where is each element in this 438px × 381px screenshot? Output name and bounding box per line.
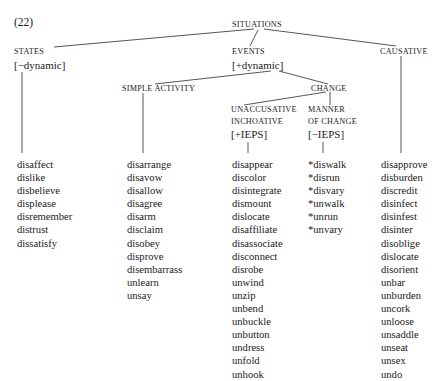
- word-list-unaccusative: disappeardiscolordisintegratedismountdis…: [232, 158, 283, 381]
- word-item: disobey: [127, 237, 182, 250]
- word-item: discolor: [232, 171, 283, 184]
- word-list-states: disaffectdislikedisbelievedispleasedisre…: [17, 158, 72, 250]
- word-item: *diswalk: [308, 158, 346, 171]
- word-item: disarm: [127, 210, 182, 223]
- example-number: (22): [14, 17, 33, 29]
- node-events-feature: [+dynamic]: [232, 60, 283, 71]
- word-item: unloose: [381, 315, 427, 328]
- word-item: disprove: [127, 250, 182, 263]
- word-item: uncork: [381, 302, 427, 315]
- word-item: dislike: [17, 171, 72, 184]
- word-item: disintegrate: [232, 184, 283, 197]
- word-item: disassociate: [232, 237, 283, 250]
- word-item: unwind: [232, 276, 283, 289]
- node-states-feature: [−dynamic]: [14, 60, 65, 71]
- node-states: STATES: [14, 48, 44, 56]
- word-item: unsex: [381, 354, 427, 367]
- word-item: dislocate: [381, 250, 427, 263]
- branch-situations-events: [250, 30, 258, 46]
- word-item: distrust: [17, 223, 72, 236]
- word-item: undo: [381, 368, 427, 381]
- word-list-manner: *diswalk*disrun*disvary*unwalk*unrun*unv…: [308, 158, 346, 237]
- word-item: unlearn: [127, 276, 182, 289]
- branch-events-change: [279, 71, 328, 84]
- word-list-simple-activity: disarrangedisavowdisallowdisagreedisarmd…: [127, 158, 182, 302]
- word-item: undress: [232, 341, 283, 354]
- word-item: disinfest: [381, 210, 427, 223]
- node-change: CHANGE: [311, 85, 347, 93]
- word-item: *unrun: [308, 210, 346, 223]
- word-item: disavow: [127, 171, 182, 184]
- word-item: disburden: [381, 171, 427, 184]
- node-manner-line2: OF CHANGE: [308, 118, 357, 126]
- word-item: disallow: [127, 184, 182, 197]
- word-item: unseat: [381, 341, 427, 354]
- word-item: discredit: [381, 184, 427, 197]
- node-unaccusative-line1: UNACCUSATIVE: [231, 106, 297, 114]
- word-item: disagree: [127, 197, 182, 210]
- word-item: *unvary: [308, 223, 346, 236]
- node-unaccusative-feature: [+IEPS]: [231, 129, 267, 140]
- word-item: disarrange: [127, 158, 182, 171]
- node-simple-activity: SIMPLE ACTIVITY: [122, 85, 195, 93]
- word-item: unbar: [381, 276, 427, 289]
- word-item: disembarrass: [127, 263, 182, 276]
- word-item: disrobe: [232, 263, 283, 276]
- word-item: unbuckle: [232, 315, 283, 328]
- word-list-causative: disapprovedisburdendiscreditdisinfectdis…: [381, 158, 427, 381]
- word-item: disorient: [381, 263, 427, 276]
- word-item: unfold: [232, 354, 283, 367]
- word-item: unsaddle: [381, 328, 427, 341]
- node-manner-line1: MANNER: [308, 106, 345, 114]
- word-item: *disrun: [308, 171, 346, 184]
- word-item: disbelieve: [17, 184, 72, 197]
- node-causative: CAUSATIVE: [380, 48, 428, 56]
- word-item: *unwalk: [308, 197, 346, 210]
- word-item: disinfect: [381, 197, 427, 210]
- node-events: EVENTS: [232, 48, 265, 56]
- word-item: unbend: [232, 302, 283, 315]
- word-item: disaffiliate: [232, 223, 283, 236]
- word-item: unbutton: [232, 328, 283, 341]
- word-item: disconnect: [232, 250, 283, 263]
- word-item: disinter: [381, 223, 427, 236]
- node-unaccusative-line2: INCHOATIVE: [231, 118, 283, 126]
- branch-situations-states: [54, 29, 254, 47]
- word-item: unburden: [381, 289, 427, 302]
- word-item: disappear: [232, 158, 283, 171]
- branch-situations-causative: [264, 29, 396, 46]
- branch-change-unaccusative: [244, 92, 326, 105]
- word-item: disclaim: [127, 223, 182, 236]
- word-item: disremember: [17, 210, 72, 223]
- word-item: dismount: [232, 197, 283, 210]
- word-item: disapprove: [381, 158, 427, 171]
- word-item: disoblige: [381, 237, 427, 250]
- word-item: unsay: [127, 289, 182, 302]
- word-item: unhook: [232, 368, 283, 381]
- node-manner-feature: [−IEPS]: [308, 129, 344, 140]
- word-item: disaffect: [17, 158, 72, 171]
- node-situations: SITUATIONS: [232, 21, 282, 29]
- word-item: displease: [17, 197, 72, 210]
- word-item: *disvary: [308, 184, 346, 197]
- branch-events-simple-activity: [155, 71, 271, 84]
- word-item: dislocate: [232, 210, 283, 223]
- word-item: unzip: [232, 289, 283, 302]
- word-item: dissatisfy: [17, 237, 72, 250]
